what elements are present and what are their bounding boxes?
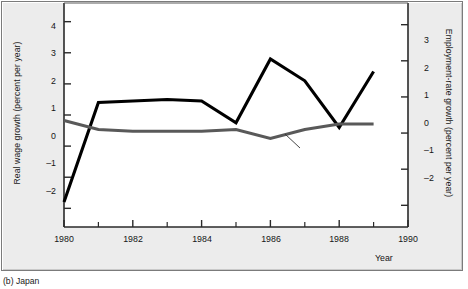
chart-vector-layer <box>0 0 468 289</box>
figure-panel-japan: Real wage growth (percent per year) Empl… <box>0 0 468 289</box>
axis-lines <box>64 3 408 227</box>
